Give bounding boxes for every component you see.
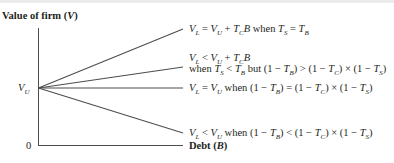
line2-label-b: when TS < TB but (1 − TB) > (1 − TC) × (…: [189, 63, 386, 79]
line1-label: VL = VU + TCB when TS = TB: [189, 23, 309, 39]
vu-tick-label: VU: [18, 82, 29, 98]
line-disadvantage: [39, 88, 184, 133]
y-axis-title: Value of firm (V): [2, 10, 78, 21]
line3-label: VL = VU when (1 − TB) = (1 − TC) × (1 − …: [189, 82, 373, 98]
line-partial-advantage: [39, 67, 184, 88]
origin-label: 0: [26, 140, 31, 151]
line-equal-tax: [39, 29, 184, 88]
x-axis-title: Debt (B): [189, 140, 227, 151]
